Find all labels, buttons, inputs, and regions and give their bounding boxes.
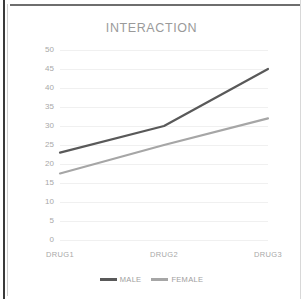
y-axis-tick-label: 5: [28, 217, 54, 225]
x-axis-tick-label: DRUG2: [134, 250, 194, 259]
chart-title: INTERACTION: [0, 21, 303, 35]
y-axis-tick-label: 0: [28, 236, 54, 244]
y-axis-tick-label: 40: [28, 84, 54, 92]
y-axis-tick-labels: 50454035302520151050: [20, 50, 54, 240]
gridline: [60, 240, 268, 241]
series-layer: [60, 50, 268, 240]
y-axis-tick-label: 20: [28, 160, 54, 168]
interaction-line-chart: INTERACTION 50454035302520151050 DRUG1DR…: [0, 0, 303, 299]
x-axis-tick-label: DRUG3: [238, 250, 298, 259]
chart-screenshot: INTERACTION 50454035302520151050 DRUG1DR…: [0, 0, 303, 299]
legend-entry-female[interactable]: FEMALE: [151, 275, 203, 284]
legend-label: FEMALE: [171, 275, 203, 284]
x-axis-tick-label: DRUG1: [30, 250, 90, 259]
y-axis-tick-label: 25: [28, 141, 54, 149]
y-axis-tick-label: 35: [28, 103, 54, 111]
y-axis-tick-label: 30: [28, 122, 54, 130]
chart-legend: MALEFEMALE: [0, 275, 303, 284]
x-axis-tick-labels: DRUG1DRUG2DRUG3: [0, 250, 303, 264]
y-axis-tick-label: 10: [28, 198, 54, 206]
y-axis-tick-label: 45: [28, 65, 54, 73]
legend-entry-male[interactable]: MALE: [100, 275, 142, 284]
y-axis-tick-label: 15: [28, 179, 54, 187]
plot-area: [60, 50, 268, 240]
y-axis-tick-label: 50: [28, 46, 54, 54]
legend-swatch-icon: [100, 278, 117, 281]
legend-swatch-icon: [151, 278, 168, 281]
legend-label: MALE: [120, 275, 142, 284]
series-line-male: [60, 69, 268, 153]
